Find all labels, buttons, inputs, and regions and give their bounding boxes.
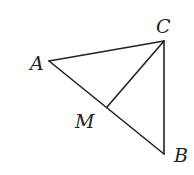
triangle-diagram: A C M B (0, 0, 194, 175)
segment-cm (107, 41, 164, 107)
segment-ac (49, 41, 164, 61)
label-a: A (28, 52, 44, 74)
label-b: B (173, 144, 188, 166)
label-c: C (156, 15, 171, 37)
label-m: M (74, 110, 95, 132)
